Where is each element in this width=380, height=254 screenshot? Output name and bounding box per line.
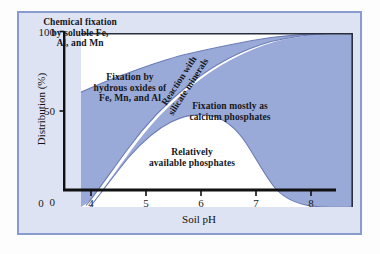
- y-axis-title: Distribution (%): [35, 49, 47, 169]
- figure-root: 100 50 0 0 4 5 6 7 8 Soil pH Distributio…: [0, 0, 380, 254]
- x-tick-label-7: 7: [253, 197, 259, 209]
- x-tick-label-0: 0: [38, 197, 44, 209]
- x-tick-label-4: 4: [88, 197, 94, 209]
- x-axis-title: Soil pH: [182, 213, 216, 225]
- x-tick-label-8: 8: [308, 197, 314, 209]
- annotation-calcium-phosphates: Fixation mostly as calcium phosphates: [171, 101, 289, 122]
- x-tick-label-6: 6: [198, 197, 204, 209]
- annotation-chemical-fixation: Chemical fixation by soluble Fe, Al, and…: [24, 17, 136, 49]
- x-tick-label-5: 5: [143, 197, 149, 209]
- annotation-available-phosphates: Relatively available phosphates: [131, 147, 253, 168]
- figure-panel: 100 50 0 0 4 5 6 7 8 Soil pH Distributio…: [17, 11, 362, 235]
